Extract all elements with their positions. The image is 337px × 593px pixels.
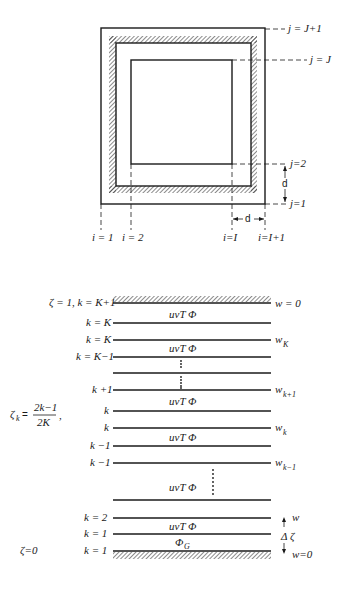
- svg-text:w: w: [275, 383, 283, 395]
- label-delta-zeta: Δ ζ: [280, 530, 296, 543]
- level-label: k = K−1: [76, 350, 114, 362]
- layer-text: uvT Φ: [169, 342, 197, 354]
- level-label: k = 1: [84, 544, 107, 556]
- outer-box: [101, 28, 265, 204]
- level-label: k = K: [86, 333, 112, 345]
- label-d-vertical: d: [282, 178, 288, 189]
- label-i-1: i = 1: [92, 231, 113, 243]
- layer-text: uvT Φ: [169, 481, 197, 493]
- svg-text:w: w: [275, 456, 283, 468]
- w-label-K: w K: [275, 333, 289, 349]
- level-label: k = K: [86, 316, 112, 328]
- layer-text: uvT Φ: [169, 520, 197, 532]
- label-zeta-0: ζ=0: [20, 544, 38, 557]
- level-label: k +1: [92, 383, 113, 395]
- level-label: k: [104, 421, 110, 433]
- vertical-layer-diagram: ζ = 1, k = K+1 w = 0 k = K k = K k = K−1…: [10, 296, 313, 560]
- svg-text:k: k: [16, 414, 20, 423]
- label-w-0-top: w = 0: [275, 297, 301, 309]
- vertical-d-dimension: d: [280, 166, 290, 202]
- interior-box: [131, 60, 232, 164]
- svg-text:k: k: [283, 428, 287, 437]
- level-label: k: [104, 404, 110, 416]
- label-w-0-bottom: w=0: [292, 548, 313, 560]
- bottom-boundary-hatch: [113, 552, 271, 559]
- svg-text:2K: 2K: [37, 416, 51, 428]
- svg-text:w: w: [275, 333, 283, 345]
- svg-text:Φ: Φ: [175, 536, 184, 548]
- grid-boundary-diagram: j = J+1 j = J j=2 j=1 d d i = 1 i = 2 i=…: [92, 22, 332, 243]
- ellipsis-dots-lower: [212, 469, 214, 495]
- label-d-horizontal: d: [245, 213, 251, 224]
- horizontal-d-dimension: d: [233, 213, 264, 224]
- label-i-2: i = 2: [122, 231, 144, 243]
- ground-geopotential-label: Φ G: [175, 536, 190, 551]
- ellipsis-dots-upper: [180, 360, 182, 389]
- svg-text:K: K: [282, 340, 289, 349]
- level-label: k = 1: [84, 527, 107, 539]
- w-label-k-plus-1: w k+1: [275, 383, 296, 399]
- w-label-k: w k: [275, 421, 287, 437]
- top-boundary-hatch: [113, 296, 271, 302]
- svg-text:G: G: [184, 542, 190, 551]
- level-label: k −1: [90, 456, 111, 468]
- label-j-1: j=1: [288, 197, 306, 209]
- w-label-k-minus-1: w k−1: [275, 456, 296, 472]
- layer-text: uvT Φ: [169, 395, 197, 407]
- label-w-arrow: w: [292, 511, 300, 523]
- label-i-I-plus-1: i=I+1: [258, 231, 285, 243]
- svg-text:k+1: k+1: [283, 390, 296, 399]
- label-j-J-plus-1: j = J+1: [286, 22, 322, 34]
- zeta-k-formula: ζ k = 2k−1 2K ,: [10, 401, 62, 428]
- label-zeta-1-k-K-plus-1: ζ = 1, k = K+1: [49, 296, 115, 309]
- svg-text:=: =: [22, 409, 28, 420]
- label-j-J: j = J: [308, 53, 332, 65]
- label-j-2: j=2: [288, 157, 306, 169]
- layer-text: uvT Φ: [169, 308, 197, 320]
- figure-canvas: j = J+1 j = J j=2 j=1 d d i = 1 i = 2 i=…: [0, 0, 337, 593]
- svg-text:2k−1: 2k−1: [34, 401, 57, 413]
- svg-text:k−1: k−1: [283, 463, 296, 472]
- svg-text:,: ,: [59, 409, 62, 421]
- label-i-I: i=I: [223, 231, 238, 243]
- level-label: k −1: [90, 439, 111, 451]
- level-label: k = 2: [84, 511, 108, 523]
- layer-text: uvT Φ: [169, 431, 197, 443]
- svg-text:w: w: [275, 421, 283, 433]
